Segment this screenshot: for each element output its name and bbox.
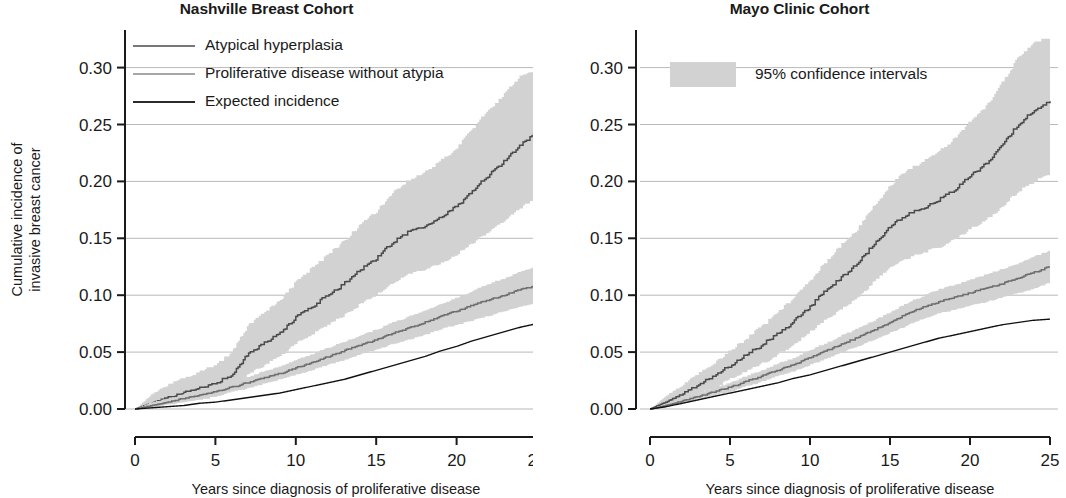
y-tick-label: 0.15	[79, 229, 112, 248]
x-tick-label: 15	[881, 451, 900, 470]
figure-cumulative-incidence: Nashville Breast Cohort 0.000.050.100.15…	[0, 0, 1066, 498]
legend: Atypical hyperplasiaProliferative diseas…	[133, 36, 444, 109]
x-tick-label: 10	[286, 451, 305, 470]
y-tick-label: 0.05	[79, 343, 112, 362]
y-tick-label: 0.10	[79, 286, 112, 305]
y-tick-label: 0.30	[79, 59, 112, 78]
y-tick-label: 0.25	[590, 116, 623, 135]
y-tick-label: 0.00	[590, 400, 623, 419]
y-tick-label: 0.20	[590, 172, 623, 191]
x-tick-label: 10	[801, 451, 820, 470]
x-tick-label: 5	[725, 451, 734, 470]
legend-label: Expected incidence	[205, 92, 339, 109]
confidence-band-atypical	[650, 39, 1050, 409]
x-tick-label: 20	[447, 451, 466, 470]
y-tick-label: 0.05	[590, 343, 623, 362]
x-tick-label: 20	[961, 451, 980, 470]
x-axis: 0510152025	[645, 437, 1059, 470]
legend-label: Proliferative disease without atypia	[205, 64, 444, 81]
x-axis-title: Years since diagnosis of proliferative d…	[192, 481, 481, 497]
y-axis-title-line2: invasive breast cancer	[27, 147, 43, 291]
series-group	[650, 39, 1050, 409]
x-tick-label: 0	[130, 451, 139, 470]
y-tick-label: 0.25	[79, 116, 112, 135]
y-tick-label: 0.00	[79, 400, 112, 419]
x-tick-label: 25	[1041, 451, 1060, 470]
x-axis: 0510152025	[130, 437, 533, 470]
legend: 95% confidence intervals	[670, 62, 928, 87]
legend-label: Atypical hyperplasia	[205, 36, 343, 53]
y-axis: 0.000.050.100.150.200.250.30	[590, 30, 636, 419]
x-tick-label: 5	[211, 451, 220, 470]
x-tick-label: 15	[367, 451, 386, 470]
x-tick-label: 0	[645, 451, 654, 470]
panel-nashville: Nashville Breast Cohort 0.000.050.100.15…	[0, 0, 533, 498]
plot-area-nashville: 0.000.050.100.150.200.250.300510152025Ye…	[0, 0, 533, 498]
y-axis: 0.000.050.100.150.200.250.30	[79, 30, 125, 419]
panel-mayo: Mayo Clinic Cohort 0.000.050.100.150.200…	[533, 0, 1066, 498]
y-tick-label: 0.20	[79, 172, 112, 191]
y-tick-label: 0.30	[590, 59, 623, 78]
x-axis-title: Years since diagnosis of proliferative d…	[706, 481, 995, 497]
y-tick-label: 0.10	[590, 286, 623, 305]
legend-label: 95% confidence intervals	[755, 65, 928, 82]
plot-area-mayo: 0.000.050.100.150.200.250.300510152025Ye…	[533, 0, 1066, 498]
y-axis-title-line1: Cumulative incidence of	[9, 142, 25, 297]
y-tick-label: 0.15	[590, 229, 623, 248]
legend-band-swatch	[670, 62, 736, 87]
